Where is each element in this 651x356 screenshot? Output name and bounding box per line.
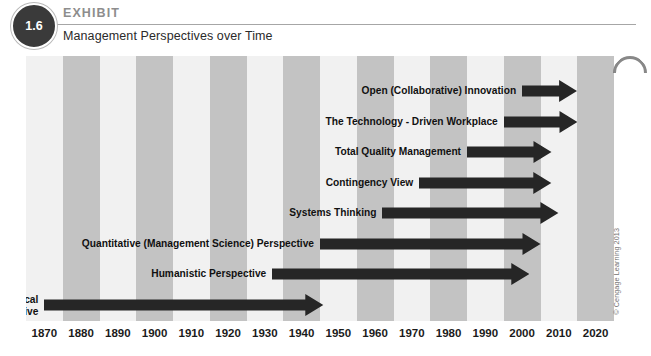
perspective-label: Quantitative (Management Science) Perspe… xyxy=(82,231,314,257)
perspective-label: Contingency View xyxy=(326,170,414,196)
timeline-arrow xyxy=(382,200,558,226)
year-tick-label: 1940 xyxy=(289,327,315,339)
exhibit-number-badge: 1.6 xyxy=(11,3,57,49)
timeline-arrow xyxy=(467,139,552,165)
year-tick-label: 1960 xyxy=(362,327,388,339)
exhibit-header: 1.6 EXHIBIT Management Perspectives over… xyxy=(0,0,641,56)
perspective-arrow-layer: Open (Collaborative) InnovationThe Techn… xyxy=(26,56,614,321)
year-tick-label: 1900 xyxy=(142,327,168,339)
year-tick-label: 1880 xyxy=(68,327,94,339)
timeline-row: Quantitative (Management Science) Perspe… xyxy=(26,231,614,257)
year-tick-label: 1870 xyxy=(32,327,58,339)
year-tick-label: 2020 xyxy=(583,327,609,339)
timeline-arrow xyxy=(320,231,541,257)
timeline-row: The Technology - Driven Workplace xyxy=(26,109,614,135)
header-divider xyxy=(36,24,636,25)
timeline-chart: Open (Collaborative) InnovationThe Techn… xyxy=(26,56,614,321)
page-title: Management Perspectives over Time xyxy=(63,29,273,43)
timeline-arrow xyxy=(504,109,578,135)
perspective-label: The Technology - Driven Workplace xyxy=(325,109,497,135)
timeline-row: Systems Thinking xyxy=(26,200,614,226)
perspective-label: Open (Collaborative) Innovation xyxy=(362,78,517,104)
year-tick-label: 1930 xyxy=(252,327,278,339)
year-tick-label: 1990 xyxy=(473,327,499,339)
timeline-arrow xyxy=(419,170,551,196)
year-tick-label: 1910 xyxy=(179,327,205,339)
year-tick-label: 1890 xyxy=(105,327,131,339)
year-tick-label: 1950 xyxy=(326,327,352,339)
perspective-label: Total Quality Management xyxy=(335,139,461,165)
year-tick-label: 2000 xyxy=(509,327,535,339)
timeline-row: Humanistic Perspective xyxy=(26,261,614,287)
timeline-row: Total Quality Management xyxy=(26,139,614,165)
timeline-arrow xyxy=(272,261,529,287)
year-tick-label: 1980 xyxy=(436,327,462,339)
perspective-label: Humanistic Perspective xyxy=(151,261,266,287)
perspective-label: Systems Thinking xyxy=(289,200,376,226)
exhibit-kicker-label: EXHIBIT xyxy=(63,6,120,20)
timeline-row: ClassicalPerspective xyxy=(26,292,614,318)
timeline-row: Contingency View xyxy=(26,170,614,196)
perspective-label: ClassicalPerspective xyxy=(26,293,38,319)
copyright-notice: © Cengage Learning 2013 xyxy=(612,228,621,315)
year-tick-label: 1970 xyxy=(399,327,425,339)
year-tick-label: 1920 xyxy=(215,327,241,339)
perspective-label-line1: Classical xyxy=(26,294,38,306)
timeline-arrow xyxy=(44,292,323,318)
timeline-arrow xyxy=(522,78,577,104)
perspective-label-line2: Perspective xyxy=(26,306,38,318)
year-tick-label: 2010 xyxy=(546,327,572,339)
timeline-row: Open (Collaborative) Innovation xyxy=(26,78,614,104)
x-axis-year-labels: 1870188018901900191019201930194019501960… xyxy=(0,327,641,347)
